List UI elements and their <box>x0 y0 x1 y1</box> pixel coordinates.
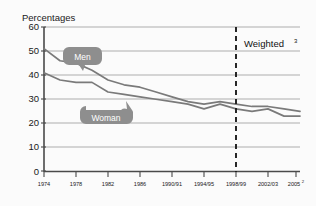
y-tick-label: 10 <box>28 141 39 152</box>
y-tick-label: 30 <box>28 93 39 104</box>
line-chart-canvas: Percentages 60 50 40 30 20 10 0 <box>0 0 316 206</box>
x-tick-label: 1982 <box>102 181 114 187</box>
y-tick-label: 20 <box>28 117 39 128</box>
woman-callout: Woman <box>80 101 133 124</box>
x-tick-label: 1986 <box>134 181 146 187</box>
y-tick-label: 60 <box>28 21 39 32</box>
chart-figure: Percentages 60 50 40 30 20 10 0 <box>0 0 316 206</box>
x-axis-ticks: 1974 1978 1982 1986 1990/91 1994/95 1998… <box>38 179 305 187</box>
weighted-annotation-label: Weighted <box>244 38 284 49</box>
y-axis-ticks: 60 50 40 30 20 10 0 <box>28 21 39 177</box>
x-tick-label: 2002/03 <box>258 181 278 187</box>
y-tick-label: 40 <box>28 69 39 80</box>
x-tick-marks <box>44 172 296 177</box>
weighted-annotation-superscript: 3 <box>294 38 298 44</box>
x-tick-label: 1990/91 <box>162 181 182 187</box>
y-tick-label: 0 <box>34 166 39 177</box>
men-callout: Men <box>63 47 102 71</box>
x-tick-label: 1998/99 <box>226 181 246 187</box>
x-tick-label: 1978 <box>70 181 82 187</box>
x-tick-label: 1994/95 <box>194 181 214 187</box>
x-tick-label: 2005 <box>288 181 300 187</box>
x-tick-label: 1974 <box>38 181 50 187</box>
y-tick-label: 50 <box>28 45 39 56</box>
woman-callout-label: Woman <box>91 113 120 123</box>
x-tick-superscript: 2 <box>302 179 305 184</box>
men-callout-label: Men <box>74 52 91 62</box>
